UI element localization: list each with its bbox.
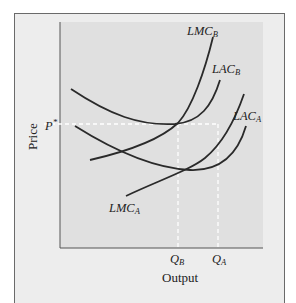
lac-b-label-base: LAC bbox=[212, 62, 235, 76]
x-axis-title: Output bbox=[162, 271, 198, 284]
qb-label-sub: B bbox=[179, 257, 184, 267]
p-star-sup: * bbox=[53, 117, 58, 127]
lmc-b-label-base: LMC bbox=[187, 24, 213, 38]
lac-b-label: LACB bbox=[212, 63, 240, 77]
lac-a-label: LACA bbox=[233, 110, 261, 124]
p-star-label: P* bbox=[45, 118, 57, 133]
qa-label-base: Q bbox=[212, 252, 221, 266]
qb-label: QB bbox=[170, 253, 184, 267]
lmc-a-label-sub: A bbox=[135, 206, 140, 216]
lac-a-label-sub: A bbox=[256, 114, 261, 124]
lmc-a-label: LMCA bbox=[109, 202, 140, 216]
p-star-base: P bbox=[45, 119, 53, 133]
lmc-b-label-sub: B bbox=[213, 29, 218, 39]
lmc-a-label-base: LMC bbox=[109, 201, 135, 215]
lac-b-label-sub: B bbox=[235, 67, 240, 77]
y-axis-title: Price bbox=[26, 123, 39, 150]
qb-label-base: Q bbox=[170, 252, 179, 266]
qa-label: QA bbox=[212, 253, 226, 267]
lmc-b-label: LMCB bbox=[187, 25, 218, 39]
qa-label-sub: A bbox=[221, 257, 226, 267]
lac-a-label-base: LAC bbox=[233, 109, 256, 123]
